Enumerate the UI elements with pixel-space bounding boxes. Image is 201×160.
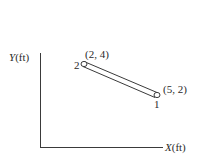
x-axis-label: X(ft) <box>165 142 186 153</box>
node-1-coords-label: (5, 2) <box>163 84 187 95</box>
node-1-id-label: 1 <box>154 99 160 110</box>
node-1-end-circle <box>154 92 160 97</box>
y-axis-label: Y(ft) <box>9 52 29 63</box>
x-axis-label-var: X <box>165 141 172 153</box>
pipe-member <box>81 61 160 97</box>
x-axis-label-unit: (ft) <box>172 141 186 153</box>
diagram-canvas <box>0 0 201 160</box>
node-2-end-circle <box>81 61 87 66</box>
y-axis-label-unit: (ft) <box>15 51 29 63</box>
node-2-coords-label: (2, 4) <box>85 49 109 60</box>
node-2-id-label: 2 <box>74 60 80 71</box>
